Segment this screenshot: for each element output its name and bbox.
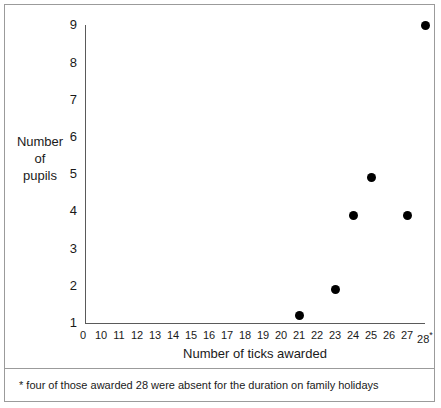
x-tick-label-28: 28*: [414, 330, 435, 345]
y-tick-label-2: 2: [57, 279, 77, 292]
y-axis-line: [85, 25, 86, 324]
data-point: [295, 311, 304, 320]
y-tick-label-6: 6: [57, 130, 77, 143]
y-tick-label-1: 1: [57, 316, 77, 329]
footnote-divider: [5, 368, 434, 369]
footnote-text: * four of those awarded 28 were absent f…: [19, 379, 379, 392]
y-tick-label-3: 3: [57, 242, 77, 255]
data-point: [331, 285, 340, 294]
data-point: [349, 211, 358, 220]
y-tick-label-4: 4: [57, 204, 77, 217]
y-axis-title-line-2: of: [7, 150, 73, 167]
data-point: [421, 21, 430, 30]
y-tick-label-7: 7: [57, 93, 77, 106]
y-tick-label-8: 8: [57, 56, 77, 69]
y-tick-label-9: 9: [57, 18, 77, 31]
x-axis-line: [85, 323, 425, 324]
data-point: [367, 173, 376, 182]
data-point: [403, 211, 412, 220]
y-tick-label-5: 5: [57, 167, 77, 180]
scatter-plot: Number of pupils 123456789 0101112131415…: [5, 5, 434, 401]
x-axis-title: Number of ticks awarded: [85, 346, 425, 361]
chart-frame: Number of pupils 123456789 0101112131415…: [4, 4, 435, 402]
footnote-marker-asterisk: *: [429, 330, 433, 340]
